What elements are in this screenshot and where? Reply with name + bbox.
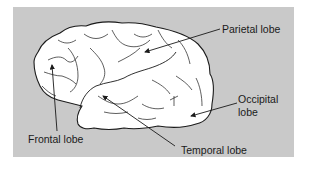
label-occipital-lobe-line2: lobe — [238, 106, 258, 118]
label-parietal-lobe: Parietal lobe — [222, 23, 280, 35]
label-temporal-lobe: Temporal lobe — [181, 144, 247, 156]
label-occipital-lobe-line1: Occipital — [238, 93, 278, 105]
label-frontal-lobe: Frontal lobe — [28, 133, 83, 145]
